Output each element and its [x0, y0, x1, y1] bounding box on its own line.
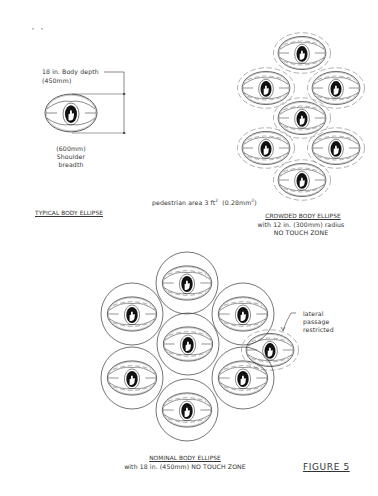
lateral-label-2: passage: [303, 318, 329, 326]
area-prefix: pedestrian area 3 ft: [152, 199, 215, 206]
crowded-body-ellipse-title: CROWDED BODY ELLIPSE: [258, 213, 348, 221]
area-metric-suffix: ): [254, 199, 257, 206]
shoulder-breadth-label-2: breadth: [56, 161, 86, 169]
shoulder-breadth-metric: (600mm): [56, 145, 86, 153]
body-depth-label: 18 in. Body depth: [42, 68, 99, 76]
lateral-label-1: lateral: [303, 310, 324, 318]
pedestrian-area-label: pedestrian area 3 ft2 (0.28mm2): [152, 199, 257, 207]
shoulder-breadth-label-1: Shoulder: [56, 153, 86, 161]
body-depth-metric: (450mm): [42, 77, 71, 85]
figure-label: FIGURE 5: [303, 464, 350, 472]
area-metric-prefix: (0.28mm: [222, 199, 251, 206]
crowded-subtitle-2: NO TOUCH ZONE: [248, 229, 354, 237]
lateral-label-3: restricted: [303, 326, 334, 334]
nominal-body-ellipse-title: NOMINAL BODY ELLIPSE: [130, 455, 240, 463]
crowded-body-ellipses: [237, 33, 364, 200]
typical-body-ellipse-title: TYPICAL BODY ELLIPSE: [35, 210, 103, 218]
area-sup: 2: [215, 198, 218, 203]
nominal-body-ellipses: [101, 252, 299, 441]
crowded-subtitle-1: with 12 in. (300mm) radius: [248, 221, 354, 229]
faint-marks: [32, 28, 43, 30]
nominal-subtitle: with 18 in. (450mm) NO TOUCH ZONE: [115, 463, 255, 471]
